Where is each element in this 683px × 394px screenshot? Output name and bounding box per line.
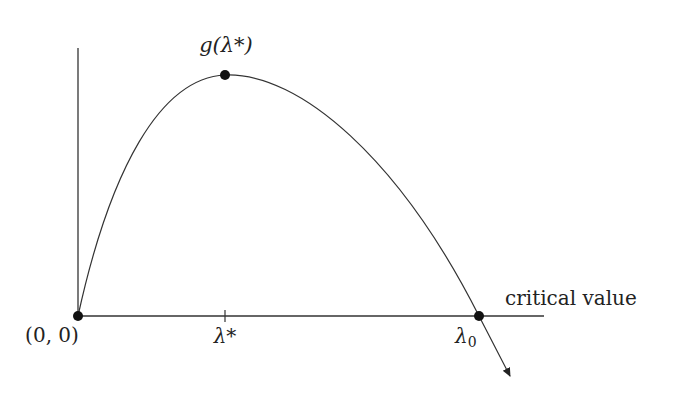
- origin-label: (0, 0): [25, 323, 79, 347]
- axis-label: critical value: [505, 286, 637, 310]
- diagram-canvas: g(λ*) (0, 0) λ* λ0 critical value: [0, 0, 683, 394]
- peak-label: g(λ*): [199, 33, 253, 57]
- lambda-zero-point: [474, 311, 484, 321]
- g-curve: [78, 75, 510, 376]
- lambda-star-label: λ*: [213, 324, 237, 348]
- lambda-zero-label: λ0: [454, 324, 477, 350]
- origin-point: [73, 311, 83, 321]
- lambda-zero-base: λ: [454, 324, 468, 348]
- lambda-zero-subscript: 0: [468, 334, 477, 350]
- peak-point: [220, 70, 230, 80]
- curve-diagram: g(λ*) (0, 0) λ* λ0 critical value: [0, 0, 683, 394]
